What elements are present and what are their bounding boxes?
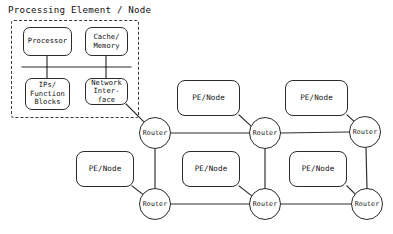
router-r1c2-label: Router — [355, 200, 379, 208]
router-r0c2: Router — [349, 116, 381, 148]
block-cache-memory: Cache/ Memory — [85, 27, 128, 56]
pe-node-r0c2-label: PE/Node — [300, 93, 333, 102]
pe-node-r1c0: PE/Node — [76, 151, 134, 187]
router-r1c1: Router — [249, 188, 281, 220]
router-r1c1-label: Router — [253, 200, 277, 208]
block-ips-line3: Blocks — [30, 98, 65, 107]
link-r0c1-r0c2 — [281, 132, 349, 133]
link-pe-r1c1-to-router — [239, 186, 252, 196]
block-cache-memory-line2: Memory — [93, 42, 119, 51]
link-pe-r0c1-to-router — [239, 115, 251, 126]
block-network-interface: Network Inter- face — [85, 78, 128, 105]
router-r1c0-label: Router — [143, 200, 167, 208]
router-r1c0: Router — [139, 188, 171, 220]
pe-node-r0c1: PE/Node — [177, 80, 240, 116]
block-processor-label: Processor — [28, 37, 67, 46]
router-r0c1-label: Router — [253, 129, 277, 137]
block-processor: Processor — [23, 27, 72, 56]
pe-node-r1c2-label: PE/Node — [302, 164, 335, 173]
pe-node-r1c1: PE/Node — [182, 151, 240, 187]
page-title: Processing Element / Node — [8, 4, 151, 15]
router-r0c2-label: Router — [353, 128, 377, 136]
router-r0c0: Router — [139, 117, 171, 149]
router-r0c0-label: Router — [143, 129, 167, 137]
pe-node-r0c2: PE/Node — [285, 80, 348, 116]
pe-node-r1c1-label: PE/Node — [195, 164, 228, 173]
block-ips-function-blocks: IPs/ Function Blocks — [25, 78, 70, 110]
pe-node-r1c0-label: PE/Node — [89, 164, 122, 173]
pe-node-r1c2: PE/Node — [289, 151, 347, 187]
link-r0c2-r1c2 — [366, 148, 367, 188]
router-r0c1: Router — [249, 117, 281, 149]
block-ni-line3: face — [91, 96, 122, 105]
diagram-canvas: Processing Element / Node Processor Cach… — [0, 0, 393, 234]
pe-node-r0c1-label: PE/Node — [192, 93, 225, 102]
router-r1c2: Router — [351, 188, 383, 220]
